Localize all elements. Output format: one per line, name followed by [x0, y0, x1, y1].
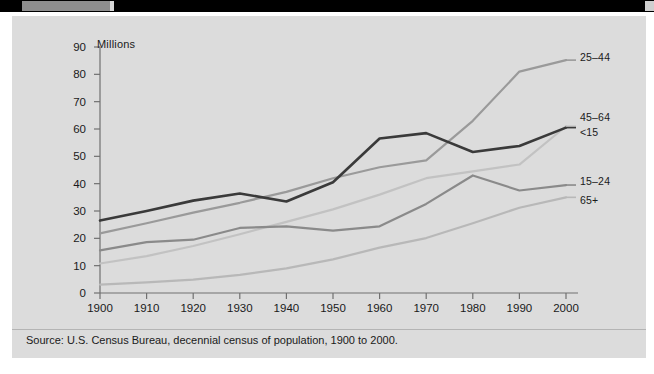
- scan-header-gray-block: [22, 1, 110, 11]
- y-axis-tick-label: 20: [56, 232, 86, 244]
- series-end-label: 25–44: [580, 51, 610, 63]
- x-axis-tick-label: 1980: [450, 302, 496, 314]
- x-axis-tick-label: 1970: [403, 302, 449, 314]
- y-axis-tick-label: 40: [56, 178, 86, 190]
- y-axis-tick-label: 10: [56, 260, 86, 272]
- scan-header-gray-block-secondary: [110, 1, 114, 11]
- y-axis-tick-label: 60: [56, 123, 86, 135]
- x-axis-tick-label: 1920: [170, 302, 216, 314]
- y-axis-title: Millions: [97, 38, 135, 50]
- y-axis-tick-label: 0: [56, 287, 86, 299]
- line-chart: [12, 16, 646, 326]
- y-axis-tick-label: 70: [56, 96, 86, 108]
- page-bottom-margin: [0, 358, 654, 374]
- x-axis-tick-label: 1990: [496, 302, 542, 314]
- y-axis-tick-label: 30: [56, 205, 86, 217]
- x-axis-tick-label: 1900: [77, 302, 123, 314]
- series-end-label: 45–64: [580, 111, 610, 123]
- x-axis-tick-label: 1910: [124, 302, 170, 314]
- y-axis-tick-label: 50: [56, 150, 86, 162]
- plot-area: 0102030405060708090190019101920193019401…: [12, 16, 646, 326]
- x-axis-tick-label: 2000: [543, 302, 589, 314]
- scan-header-right-edge: [645, 1, 654, 11]
- series-end-label: 65+: [580, 194, 598, 206]
- footer-divider: [12, 329, 646, 330]
- y-axis-tick-label: 80: [56, 68, 86, 80]
- x-axis-tick-label: 1950: [310, 302, 356, 314]
- scan-header-strip: [0, 0, 654, 12]
- series-end-label: <15: [580, 126, 598, 138]
- x-axis-tick-label: 1930: [217, 302, 263, 314]
- x-axis-tick-label: 1960: [357, 302, 403, 314]
- source-note: Source: U.S. Census Bureau, decennial ce…: [26, 334, 398, 346]
- series-end-label: 15–24: [580, 175, 610, 187]
- figure-panel: 0102030405060708090190019101920193019401…: [12, 16, 646, 358]
- chart-page: 0102030405060708090190019101920193019401…: [0, 0, 654, 374]
- y-axis-tick-label: 90: [56, 41, 86, 53]
- x-axis-tick-label: 1940: [263, 302, 309, 314]
